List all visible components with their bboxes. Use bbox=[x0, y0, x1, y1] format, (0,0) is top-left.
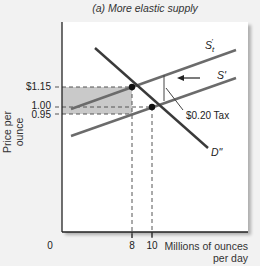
x-axis-label: Millions of ounces per day bbox=[162, 240, 248, 264]
demand-label: D" bbox=[211, 146, 222, 158]
pre-tax-equilibrium-point bbox=[149, 104, 155, 110]
y-tick-0-95: 0.95 bbox=[11, 109, 51, 120]
x-tick-10: 10 bbox=[142, 240, 162, 251]
shift-arrow-icon bbox=[177, 75, 200, 81]
plot-area bbox=[0, 0, 260, 266]
x-axis-label-line2: per day bbox=[162, 252, 248, 264]
supply-label: S' bbox=[217, 69, 226, 81]
tax-annotation: $0.20 Tax bbox=[186, 110, 229, 121]
y-tick-1-15: $1.15 bbox=[11, 81, 51, 92]
x-tick-origin: 0 bbox=[40, 240, 60, 251]
tax-bracket bbox=[164, 75, 183, 110]
x-axis-label-line1: Millions of ounces bbox=[162, 240, 248, 252]
x-tick-8: 8 bbox=[122, 240, 142, 251]
post-tax-equilibrium-point bbox=[129, 84, 135, 90]
supply-taxed-label: St' bbox=[205, 37, 213, 54]
